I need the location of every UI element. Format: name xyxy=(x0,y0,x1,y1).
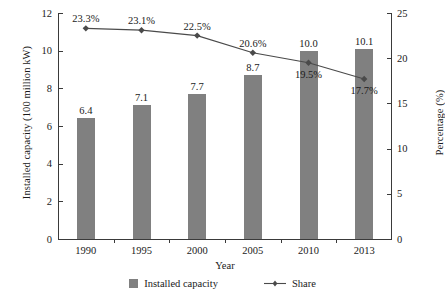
y-axis-right-tick-label: 25 xyxy=(397,8,443,19)
x-axis-tick-label: 2000 xyxy=(167,245,227,256)
diamond-marker-icon xyxy=(194,32,200,38)
x-axis-tick-label: 2010 xyxy=(279,245,339,256)
y-axis-right-tick-label: 15 xyxy=(397,98,443,109)
bar-value-label: 6.4 xyxy=(56,105,116,116)
y-axis-left-tick-label: 8 xyxy=(6,83,52,94)
bar-value-label: 10.0 xyxy=(279,38,339,49)
line-diamond-icon xyxy=(264,279,286,288)
diamond-marker-icon xyxy=(250,50,256,56)
line-point-label: 20.6% xyxy=(223,38,283,49)
y-axis-right-title: Percentage (%) xyxy=(434,8,445,238)
chart-legend: Installed capacity Share xyxy=(0,278,445,289)
y-axis-right-tick-label: 5 xyxy=(397,188,443,199)
line-point-label: 23.3% xyxy=(56,13,116,24)
y-axis-right-tick-label: 20 xyxy=(397,53,443,64)
line-point-label: 23.1% xyxy=(112,15,172,26)
bar-swatch-icon xyxy=(129,279,138,288)
diamond-marker-icon xyxy=(83,25,89,31)
y-axis-left-tick-label: 0 xyxy=(6,234,52,245)
line-point-label: 17.7% xyxy=(334,85,394,96)
line-point-label: 22.5% xyxy=(167,21,227,32)
y-axis-left-tick-label: 10 xyxy=(6,45,52,56)
legend-item-installed-capacity: Installed capacity xyxy=(129,278,218,289)
y-axis-left-tick-label: 2 xyxy=(6,196,52,207)
plot-area: 024681012 0510152025 1990199520002005201… xyxy=(58,13,392,240)
bar-value-label: 8.7 xyxy=(223,62,283,73)
diamond-marker-icon xyxy=(305,60,311,66)
legend-label-installed-capacity: Installed capacity xyxy=(144,278,218,289)
x-axis-tick-label: 2013 xyxy=(334,245,394,256)
y-axis-left-tick-label: 12 xyxy=(6,8,52,19)
diamond-marker-icon xyxy=(138,27,144,33)
x-axis-tick-label: 2005 xyxy=(223,245,283,256)
legend-item-share: Share xyxy=(264,278,316,289)
legend-label-share: Share xyxy=(292,278,316,289)
bar-value-label: 10.1 xyxy=(334,36,394,47)
bar-value-label: 7.1 xyxy=(112,92,172,103)
line-point-label: 19.5% xyxy=(279,69,339,80)
bar-value-label: 7.7 xyxy=(167,81,227,92)
y-axis-left-tick-label: 4 xyxy=(6,158,52,169)
x-axis-title: Year xyxy=(58,260,392,271)
y-axis-right-tick-label: 10 xyxy=(397,143,443,154)
y-axis-left-tick-label: 6 xyxy=(6,121,52,132)
combo-chart: Installed capacity (100 million kW) Perc… xyxy=(0,0,445,297)
x-axis-tick-label: 1990 xyxy=(56,245,116,256)
y-axis-right-tick-label: 0 xyxy=(397,234,443,245)
x-axis-tick-label: 1995 xyxy=(112,245,172,256)
diamond-marker-icon xyxy=(361,76,367,82)
